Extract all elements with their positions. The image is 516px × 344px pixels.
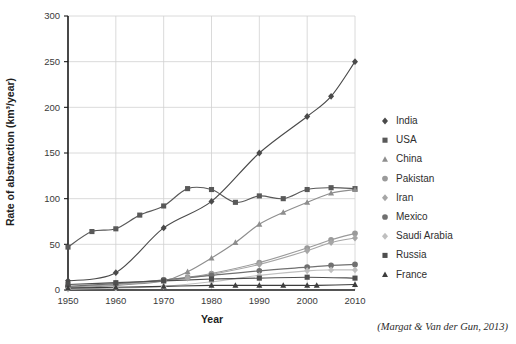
legend-label: USA: [396, 134, 417, 145]
data-point-marker: [281, 196, 286, 201]
x-tick-label: 1950: [57, 295, 78, 306]
legend-label: Russia: [396, 249, 427, 260]
data-point-marker: [161, 278, 166, 283]
data-point-marker: [209, 276, 214, 281]
data-point-marker: [185, 186, 190, 191]
legend-marker-icon: [382, 253, 387, 258]
data-point-marker: [113, 226, 118, 231]
data-point-marker: [329, 185, 334, 190]
legend-label: Saudi Arabia: [396, 230, 453, 241]
data-point-marker: [209, 187, 214, 192]
y-tick-label: 300: [44, 10, 60, 21]
y-tick-label: 100: [44, 193, 60, 204]
legend-marker-icon: [382, 138, 387, 143]
legend-label: India: [396, 115, 418, 126]
data-point-marker: [257, 193, 262, 198]
data-point-marker: [89, 229, 94, 234]
legend-label: France: [396, 269, 428, 280]
data-point-marker: [65, 245, 70, 250]
legend-marker-icon: [382, 214, 388, 220]
x-tick-label: 1960: [105, 295, 126, 306]
data-point-marker: [352, 262, 358, 268]
data-point-marker: [352, 276, 357, 281]
legend-label: Pakistan: [396, 173, 434, 184]
abstraction-rate-line-chart: 050100150200250300 195019601970198019902…: [0, 0, 516, 344]
data-point-marker: [137, 213, 142, 218]
y-tick-label: 250: [44, 56, 60, 67]
x-axis-title: Year: [201, 313, 223, 325]
y-tick-label: 200: [44, 102, 60, 113]
data-point-marker: [257, 276, 262, 281]
y-tick-label: 50: [49, 239, 60, 250]
data-point-marker: [233, 200, 238, 205]
x-tick-label: 1970: [153, 295, 174, 306]
y-axis-title: Rate of abstraction (km³/year): [4, 78, 16, 226]
data-point-marker: [305, 187, 310, 192]
data-point-marker: [161, 203, 166, 208]
x-tick-label: 1990: [249, 295, 270, 306]
data-point-marker: [305, 275, 310, 280]
x-tick-label: 1980: [201, 295, 222, 306]
y-tick-label: 150: [44, 147, 60, 158]
chart-page: 050100150200250300 195019601970198019902…: [0, 0, 516, 344]
legend-label: Mexico: [396, 211, 428, 222]
x-tick-label: 2010: [344, 295, 365, 306]
chart-background: [0, 0, 516, 344]
x-tick-label: 2000: [297, 295, 318, 306]
legend-label: Iran: [396, 192, 413, 203]
legend-marker-icon: [382, 176, 388, 182]
y-tick-label: 0: [55, 284, 60, 295]
legend-label: China: [396, 153, 423, 164]
source-credit: (Margat & Van der Gun, 2013): [377, 321, 508, 333]
